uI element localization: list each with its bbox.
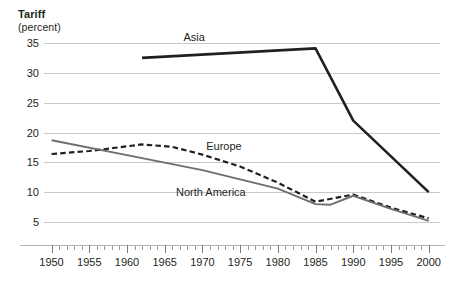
series-line-europe	[52, 144, 429, 218]
x-tick-1979	[270, 246, 271, 250]
x-tick-1989	[346, 246, 347, 250]
x-tick-1959	[119, 246, 120, 250]
x-tick-label-1955: 1955	[77, 256, 101, 268]
x-tick-1961	[135, 246, 136, 250]
x-tick-1969	[195, 246, 196, 250]
x-tick-1982	[293, 246, 294, 250]
y-tick-label-25: 25	[27, 97, 39, 109]
x-tick-label-2000: 2000	[416, 256, 440, 268]
x-tick-1968	[187, 246, 188, 250]
series-line-north-america	[52, 140, 429, 221]
x-tick-label-1970: 1970	[190, 256, 214, 268]
x-tick-1980	[278, 245, 279, 253]
x-tick-1950	[52, 245, 53, 253]
y-tick-label-20: 20	[27, 127, 39, 139]
x-tick-1954	[82, 246, 83, 250]
x-tick-label-1990: 1990	[341, 256, 365, 268]
x-tick-1997	[406, 246, 407, 250]
tariff-line-chart: Tariff (percent) 3530252015105 AsiaEurop…	[0, 0, 451, 286]
y-tick-label-15: 15	[27, 156, 39, 168]
x-tick-1999	[421, 246, 422, 250]
x-tick-1964	[157, 246, 158, 250]
x-tick-1996	[399, 246, 400, 250]
x-tick-1983	[301, 246, 302, 250]
x-tick-1953	[74, 246, 75, 250]
y-tick-label-5: 5	[33, 216, 39, 228]
x-tick-1972	[218, 246, 219, 250]
series-label-north-america: North America	[176, 186, 246, 198]
x-tick-1985	[316, 245, 317, 253]
gridline-5: 5	[44, 222, 440, 223]
x-tick-label-1950: 1950	[39, 256, 63, 268]
x-tick-1956	[97, 246, 98, 250]
x-tick-1971	[210, 246, 211, 250]
page-title: Tariff	[18, 8, 61, 21]
x-tick-1973	[225, 246, 226, 250]
x-tick-1987	[331, 246, 332, 250]
x-tick-1984	[308, 246, 309, 250]
chart-subtitle: (percent)	[18, 21, 61, 33]
x-tick-1995	[391, 245, 392, 253]
x-tick-1977	[255, 246, 256, 250]
x-tick-1978	[263, 246, 264, 250]
x-tick-label-1985: 1985	[303, 256, 327, 268]
plot-area: 3530252015105 AsiaEuropeNorth America	[44, 43, 440, 222]
x-tick-1981	[285, 246, 286, 250]
y-tick-label-30: 30	[27, 67, 39, 79]
x-tick-1958	[112, 246, 113, 250]
x-tick-1952	[67, 246, 68, 250]
x-tick-1975	[240, 245, 241, 253]
y-tick-label-10: 10	[27, 186, 39, 198]
series-line-asia	[142, 48, 429, 192]
x-tick-label-1995: 1995	[379, 256, 403, 268]
x-tick-1994	[383, 246, 384, 250]
x-tick-1976	[248, 246, 249, 250]
x-tick-1988	[338, 246, 339, 250]
x-tick-1970	[202, 245, 203, 253]
x-tick-1993	[376, 246, 377, 250]
x-tick-1960	[127, 245, 128, 253]
x-axis: 1950195519601965197019751980198519901995…	[0, 245, 451, 286]
chart-title-block: Tariff (percent)	[18, 8, 61, 33]
x-tick-1967	[180, 246, 181, 250]
x-tick-1962	[142, 246, 143, 250]
x-tick-1955	[89, 245, 90, 253]
x-tick-1957	[104, 246, 105, 250]
x-tick-1974	[233, 246, 234, 250]
series-label-europe: Europe	[206, 140, 241, 152]
x-tick-1986	[323, 246, 324, 250]
x-tick-1965	[165, 245, 166, 253]
x-tick-1992	[368, 246, 369, 250]
x-tick-1998	[414, 246, 415, 250]
x-tick-1966	[172, 246, 173, 250]
x-tick-label-1965: 1965	[152, 256, 176, 268]
x-tick-2000	[429, 245, 430, 253]
series-label-asia: Asia	[184, 31, 205, 43]
x-tick-1963	[150, 246, 151, 250]
x-tick-1951	[59, 246, 60, 250]
x-tick-label-1980: 1980	[266, 256, 290, 268]
y-tick-label-35: 35	[27, 37, 39, 49]
x-tick-label-1960: 1960	[115, 256, 139, 268]
x-tick-label-1975: 1975	[228, 256, 252, 268]
x-tick-1991	[361, 246, 362, 250]
x-tick-1990	[353, 245, 354, 253]
